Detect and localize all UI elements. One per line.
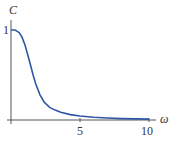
y-axis-label: C bbox=[9, 3, 17, 18]
x-tick-label-10: 10 bbox=[141, 124, 153, 139]
chart bbox=[0, 0, 171, 141]
x-axis-label: ω bbox=[160, 112, 168, 127]
y-tick-label-1: 1 bbox=[3, 23, 9, 38]
curve-line bbox=[11, 30, 149, 119]
x-tick-label-5: 5 bbox=[77, 124, 83, 139]
